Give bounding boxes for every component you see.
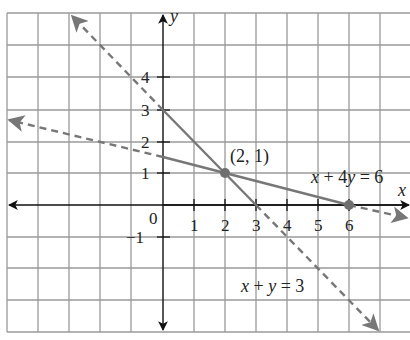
graph: y x 4 3 2 1 −1 0 1 2 3 4 5 6 (2, 1) x + …: [0, 0, 410, 340]
eq1-plus-4: + 4: [319, 167, 347, 187]
x-tick-5: 5: [314, 216, 323, 235]
y-tick-3: 3: [141, 101, 150, 120]
eq1-y: y: [345, 167, 355, 187]
eq1-rhs: = 6: [355, 167, 383, 187]
dashed-ray-right: [349, 205, 407, 218]
equation-label-x-plus-4y: x + 4y = 6: [310, 167, 383, 187]
eq2-x: x: [240, 276, 249, 296]
y-tick-2: 2: [141, 133, 150, 152]
x-intercept-point: [344, 200, 354, 210]
x-axis-label: x: [397, 180, 406, 200]
x-tick-1: 1: [190, 216, 199, 235]
eq2-plus: +: [249, 276, 268, 296]
y-tick-4: 4: [141, 68, 150, 87]
equation-label-x-plus-y: x + y = 3: [240, 276, 304, 296]
y-axis-label: y: [168, 6, 178, 26]
x-tick-6: 6: [345, 216, 354, 235]
eq2-rhs: = 3: [276, 276, 304, 296]
x-tick-4: 4: [283, 216, 292, 235]
y-tick-minus-1: −1: [126, 228, 144, 247]
dashed-ray-upper-left: [72, 16, 163, 110]
x-tick-2: 2: [221, 216, 230, 235]
intersection-point: [220, 168, 230, 178]
x-tick-3: 3: [252, 216, 261, 235]
eq1-x: x: [310, 167, 319, 187]
origin-label: 0: [149, 209, 158, 228]
intersection-label: (2, 1): [230, 146, 269, 167]
y-tick-1: 1: [141, 164, 150, 183]
dashed-ray-left: [9, 120, 163, 157]
eq2-y: y: [266, 276, 276, 296]
